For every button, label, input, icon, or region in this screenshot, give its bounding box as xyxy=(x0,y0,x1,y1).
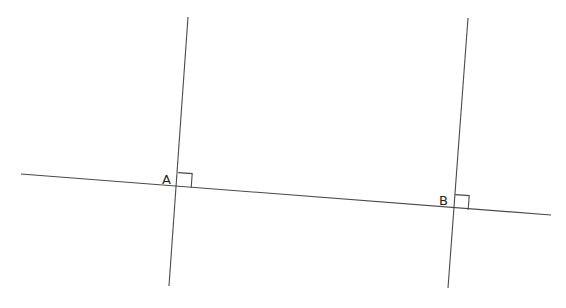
point-label-a: A xyxy=(162,172,171,187)
right-angle-marker-a xyxy=(178,173,192,188)
perpendicular-line-a xyxy=(169,17,188,286)
transversal-line xyxy=(21,174,551,215)
point-label-b: B xyxy=(439,193,448,208)
perpendicular-line-b xyxy=(448,18,468,288)
perpendicular-lines-diagram: A B xyxy=(0,0,566,308)
